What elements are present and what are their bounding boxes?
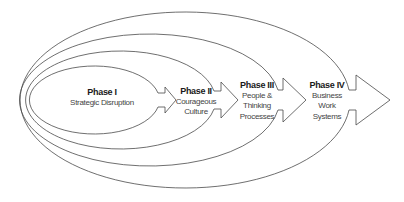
- phase-3-desc-line-1: People &: [237, 91, 277, 102]
- arrow-icon-phase-4: [349, 75, 390, 125]
- phase-4-desc-line-2: Work: [307, 101, 347, 112]
- phase-2-title: Phase II: [174, 86, 218, 97]
- phase-1-desc-line-1: Strategic Disruption: [62, 98, 142, 109]
- phase-3-title: Phase III: [237, 80, 277, 91]
- phase-4-desc-line-1: Business: [307, 91, 347, 102]
- phase-2-desc-line-1: Courageous: [174, 97, 218, 108]
- arrow-icon-phase-3: [278, 78, 306, 122]
- phase-2-desc-line-2: Culture: [174, 107, 218, 118]
- phase-3-desc-line-3: Processes: [237, 112, 277, 123]
- phase-4-desc-line-3: Systems: [307, 112, 347, 123]
- phase-4-label: Phase IV Business Work Systems: [307, 80, 347, 122]
- phase-2-label: Phase II Courageous Culture: [174, 86, 218, 118]
- phase-1-title: Phase I: [62, 87, 142, 98]
- phase-4-title: Phase IV: [307, 80, 347, 91]
- phase-1-label: Phase I Strategic Disruption: [62, 87, 142, 108]
- phase-3-label: Phase III People & Thinking Processes: [237, 80, 277, 122]
- phase-3-desc-line-2: Thinking: [237, 101, 277, 112]
